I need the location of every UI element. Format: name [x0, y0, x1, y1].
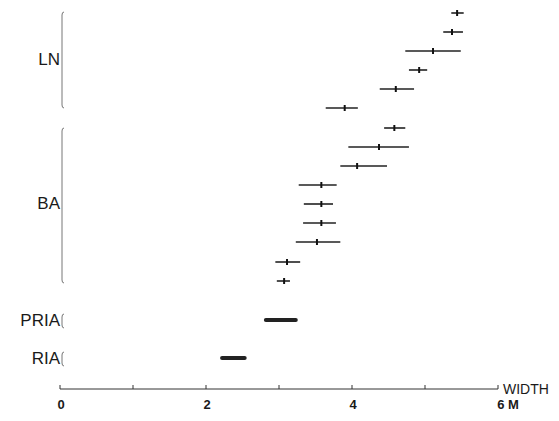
group-label-pria: PRIA [0, 311, 60, 331]
group-bracket-ria [62, 352, 64, 366]
group-label-ln: LN [0, 50, 60, 70]
x-tick-0: 0 [57, 397, 64, 412]
x-tick-6: 6 M [497, 397, 519, 412]
x-axis-title: WIDTH [503, 381, 549, 397]
chart-plot-area [0, 0, 559, 421]
x-tick-2: 2 [203, 397, 210, 412]
group-bracket-pria [62, 314, 64, 328]
x-tick-4: 4 [349, 397, 356, 412]
group-label-ria: RIA [0, 349, 60, 369]
group-bracket-ln [62, 12, 64, 108]
group-label-ba: BA [0, 194, 60, 214]
group-bracket-ba [62, 128, 64, 283]
